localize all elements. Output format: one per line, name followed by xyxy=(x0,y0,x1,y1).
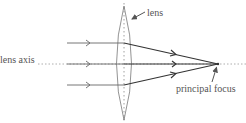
focus-pointer-arrow xyxy=(212,68,217,83)
lens-pointer-arrow xyxy=(132,12,145,19)
principal-focus-point xyxy=(217,63,219,65)
refracted-rays xyxy=(124,43,218,85)
lens-axis-label: lens axis xyxy=(0,54,35,65)
lens-diagram: lens lens axis principal focus xyxy=(0,0,246,123)
principal-focus-label: principal focus xyxy=(176,83,236,94)
lens-label: lens xyxy=(147,7,163,18)
incoming-rays xyxy=(67,40,124,88)
